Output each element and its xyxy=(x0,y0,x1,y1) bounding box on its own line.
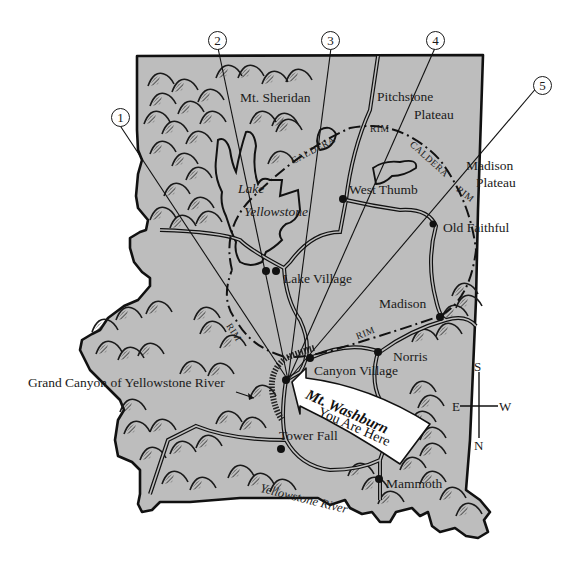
label-norris: Norris xyxy=(393,350,428,364)
label-pitchstone-plateau: Plateau xyxy=(414,108,454,122)
callout-3[interactable]: 3 xyxy=(321,31,340,50)
compass-n: N xyxy=(474,439,483,452)
label-grand-canyon: Grand Canyon of Yellowstone River xyxy=(28,376,225,390)
label-old-faithful: Old Faithful xyxy=(443,221,509,235)
callout-5[interactable]: 5 xyxy=(533,76,552,95)
label-canyon-village: Canyon Village xyxy=(314,364,398,378)
label-madison-plateau-2: Plateau xyxy=(476,176,516,190)
label-west-thumb: West Thumb xyxy=(349,183,418,197)
label-lake: Lake xyxy=(238,182,264,196)
compass-w: W xyxy=(499,400,511,413)
label-yellowstone: Yellowstone xyxy=(244,205,308,219)
label-lake-village: Lake Village xyxy=(283,272,352,286)
callout-1[interactable]: 1 xyxy=(111,108,130,127)
label-madison-plateau-1: Madison xyxy=(466,159,513,173)
label-mammoth: Mammoth xyxy=(386,477,442,491)
label-tower-fall: Tower Fall xyxy=(279,429,338,443)
callout-4[interactable]: 4 xyxy=(426,31,445,50)
compass-s: S xyxy=(474,360,481,373)
callout-2[interactable]: 2 xyxy=(208,31,227,50)
label-madison: Madison xyxy=(379,297,426,311)
compass-e: E xyxy=(452,400,460,413)
label-mt-sheridan: Mt. Sheridan xyxy=(240,91,311,105)
label-pitchstone: Pitchstone xyxy=(377,90,433,104)
rim-label-1: RIM xyxy=(370,125,389,135)
